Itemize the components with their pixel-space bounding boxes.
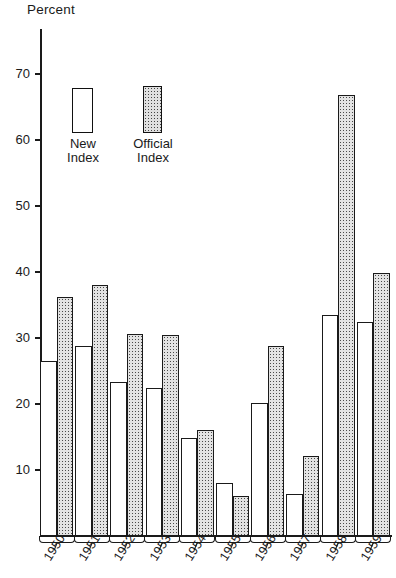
bar-new-1957 [286, 494, 303, 536]
bar-official-1956 [268, 346, 285, 536]
bar-chart: Percent 10203040506070 19501951195219531… [0, 0, 396, 578]
bar-official-1958 [338, 95, 355, 536]
legend-label-official: Official Index [126, 137, 180, 165]
bar-official-1952 [127, 334, 144, 536]
bar-official-1954 [197, 430, 214, 536]
bar-new-1956 [251, 403, 268, 536]
bar-official-1959 [373, 273, 390, 536]
bar-new-1958 [322, 315, 339, 536]
bar-official-1957 [303, 456, 320, 536]
plot-area [0, 0, 396, 578]
bar-new-1953 [146, 388, 163, 536]
bar-new-1955 [216, 483, 233, 536]
bar-official-1951 [92, 285, 109, 536]
bar-new-1952 [110, 382, 127, 536]
bar-new-1951 [75, 346, 92, 536]
bar-new-1954 [181, 438, 198, 536]
bar-new-1950 [40, 361, 57, 536]
legend-label-new: New Index [62, 137, 104, 165]
legend-swatch-official [143, 86, 162, 133]
bar-new-1959 [357, 322, 374, 537]
bar-official-1953 [162, 335, 179, 536]
bar-official-1950 [57, 297, 74, 536]
legend-swatch-new [72, 88, 93, 133]
bar-official-1955 [233, 496, 250, 536]
